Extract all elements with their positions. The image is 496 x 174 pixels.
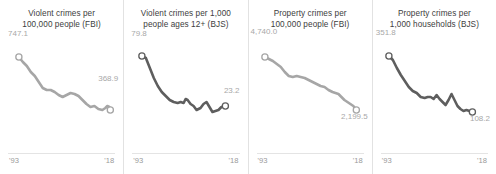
chart-panel-property-fbi: Property crimes per 100,000 people (FBI)…	[249, 0, 373, 174]
x-axis-labels: '93 '18	[249, 156, 372, 168]
line-chart-svg	[249, 34, 372, 142]
x-axis-end-label: '18	[229, 156, 239, 168]
x-axis-line	[8, 153, 115, 154]
panel-title: Property crimes per 1,000 households (BJ…	[373, 9, 496, 30]
plot-area: 747.1 368.9	[0, 34, 123, 142]
x-axis-line	[381, 153, 488, 154]
crime-trends-small-multiples: Violent crimes per 100,000 people (FBI) …	[0, 0, 496, 174]
start-value-label: 4,740.0	[251, 27, 278, 36]
line-chart-svg	[0, 34, 123, 142]
x-axis-labels: '93 '18	[373, 156, 496, 168]
start-marker	[139, 53, 145, 59]
start-value-label: 747.1	[8, 29, 28, 38]
line-chart-svg	[373, 34, 496, 142]
panel-title: Violent crimes per 100,000 people (FBI)	[0, 9, 123, 30]
x-axis-line	[257, 153, 364, 154]
x-axis-labels: '93 '18	[0, 156, 123, 168]
x-axis-start-label: '93	[133, 156, 143, 168]
start-marker	[16, 54, 22, 60]
data-line	[142, 56, 225, 112]
end-value-label: 368.9	[98, 74, 118, 83]
x-axis-end-label: '18	[104, 156, 114, 168]
start-value-label: 351.8	[376, 28, 396, 37]
plot-area: 79.8 23.2	[124, 34, 247, 142]
start-marker	[261, 54, 267, 60]
x-axis-start-label: '93	[258, 156, 268, 168]
data-line	[264, 57, 355, 110]
chart-panel-property-bjs: Property crimes per 1,000 households (BJ…	[373, 0, 496, 174]
x-axis-end-label: '18	[477, 156, 487, 168]
data-line	[19, 57, 110, 110]
plot-area: 4,740.0 2,199.5	[249, 34, 372, 142]
x-axis-end-label: '18	[353, 156, 363, 168]
end-marker	[223, 103, 229, 109]
start-value-label: 79.8	[131, 29, 147, 38]
data-line	[389, 56, 472, 112]
x-axis-line	[132, 153, 239, 154]
end-marker	[107, 107, 113, 113]
start-marker	[386, 53, 392, 59]
end-value-label: 23.2	[224, 86, 240, 95]
panel-title: Violent crimes per 1,000 people ages 12+…	[124, 9, 247, 30]
plot-area: 351.8 108.2	[373, 34, 496, 142]
x-axis-labels: '93 '18	[124, 156, 247, 168]
end-value-label: 2,199.5	[341, 112, 368, 121]
end-value-label: 108.2	[470, 114, 490, 123]
x-axis-start-label: '93	[9, 156, 19, 168]
chart-panel-violent-bjs: Violent crimes per 1,000 people ages 12+…	[124, 0, 248, 174]
chart-panel-violent-fbi: Violent crimes per 100,000 people (FBI) …	[0, 0, 124, 174]
x-axis-start-label: '93	[382, 156, 392, 168]
